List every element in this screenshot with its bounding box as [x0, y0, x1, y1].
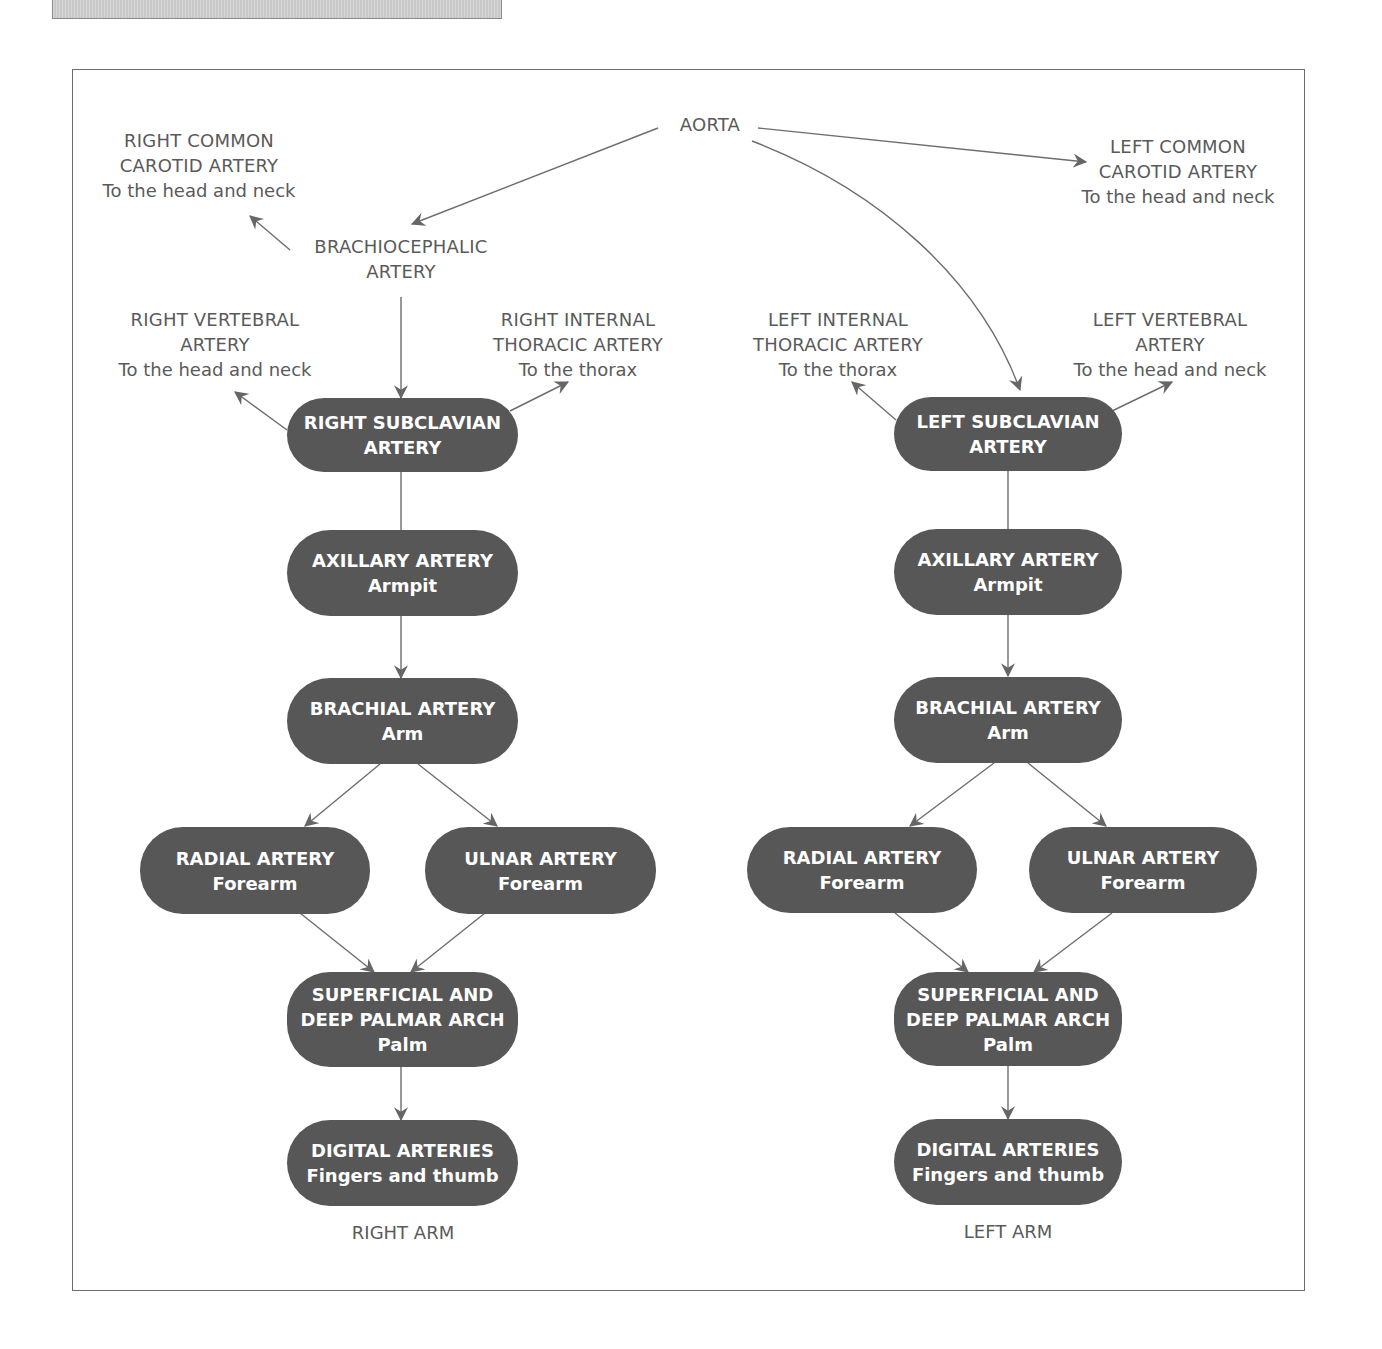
left-common-carotid-title-2: CAROTID ARTERY: [1082, 159, 1275, 184]
left-vertebral-title-1: LEFT VERTEBRAL: [1074, 307, 1267, 332]
right-subclavian-line-1: RIGHT SUBCLAVIAN: [304, 410, 501, 435]
arrow-right-subclavian-to-vertebral: [235, 392, 287, 430]
right-internal-thoracic-title-1: RIGHT INTERNAL: [493, 307, 663, 332]
aorta-title: AORTA: [680, 112, 740, 137]
arrow-left-brachial-to-radial: [910, 763, 994, 826]
left-arm-caption: LEFT ARM: [964, 1221, 1053, 1242]
right-palmar-line-2: DEEP PALMAR ARCH: [301, 1007, 505, 1032]
left-brachial-line-1: BRACHIAL ARTERY: [915, 695, 1101, 720]
left-radial-sub: Forearm: [820, 870, 905, 895]
right-internal-thoracic-title-2: THORACIC ARTERY: [493, 332, 663, 357]
right-axillary-sub: Armpit: [368, 573, 437, 598]
right-brachial-sub: Arm: [382, 721, 424, 746]
left-internal-thoracic-title-2: THORACIC ARTERY: [753, 332, 923, 357]
right-digital-node: DIGITAL ARTERIES Fingers and thumb: [287, 1120, 518, 1206]
left-vertebral-label: LEFT VERTEBRAL ARTERY To the head and ne…: [1074, 307, 1267, 382]
right-axillary-line-1: AXILLARY ARTERY: [312, 548, 493, 573]
right-subclavian-node: RIGHT SUBCLAVIAN ARTERY: [287, 398, 518, 472]
left-radial-line-1: RADIAL ARTERY: [783, 845, 942, 870]
left-brachial-node: BRACHIAL ARTERY Arm: [894, 677, 1122, 763]
right-radial-line-1: RADIAL ARTERY: [176, 846, 335, 871]
left-vertebral-title-2: ARTERY: [1074, 332, 1267, 357]
left-internal-thoracic-title-1: LEFT INTERNAL: [753, 307, 923, 332]
right-common-carotid-title-1: RIGHT COMMON: [103, 128, 296, 153]
left-internal-thoracic-label: LEFT INTERNAL THORACIC ARTERY To the tho…: [753, 307, 923, 382]
left-brachial-sub: Arm: [987, 720, 1029, 745]
left-vertebral-sub: To the head and neck: [1074, 357, 1267, 382]
left-digital-sub: Fingers and thumb: [912, 1162, 1104, 1187]
right-palmar-arch-node: SUPERFICIAL AND DEEP PALMAR ARCH Palm: [287, 972, 518, 1067]
left-axillary-node: AXILLARY ARTERY Armpit: [894, 529, 1122, 615]
left-common-carotid-label: LEFT COMMON CAROTID ARTERY To the head a…: [1082, 134, 1275, 209]
left-ulnar-line-1: ULNAR ARTERY: [1067, 845, 1220, 870]
right-vertebral-title-1: RIGHT VERTEBRAL: [119, 307, 312, 332]
left-digital-node: DIGITAL ARTERIES Fingers and thumb: [894, 1119, 1122, 1205]
right-arm-caption: RIGHT ARM: [352, 1222, 454, 1243]
left-palmar-sub: Palm: [983, 1032, 1033, 1057]
left-palmar-line-2: DEEP PALMAR ARCH: [906, 1007, 1110, 1032]
arrow-brachiocephalic-to-right-common-carotid: [250, 216, 290, 250]
arrow-left-radial-to-palmar: [895, 913, 968, 972]
left-ulnar-node: ULNAR ARTERY Forearm: [1029, 827, 1257, 913]
right-vertebral-sub: To the head and neck: [119, 357, 312, 382]
arrow-right-brachial-to-ulnar: [418, 764, 497, 826]
left-axillary-sub: Armpit: [973, 572, 1042, 597]
right-brachial-node: BRACHIAL ARTERY Arm: [287, 678, 518, 764]
right-digital-sub: Fingers and thumb: [306, 1163, 498, 1188]
right-vertebral-title-2: ARTERY: [119, 332, 312, 357]
right-radial-node: RADIAL ARTERY Forearm: [140, 827, 370, 914]
right-internal-thoracic-label: RIGHT INTERNAL THORACIC ARTERY To the th…: [493, 307, 663, 382]
right-common-carotid-label: RIGHT COMMON CAROTID ARTERY To the head …: [103, 128, 296, 203]
arrow-aorta-to-left-common-carotid: [758, 128, 1086, 162]
right-common-carotid-title-2: CAROTID ARTERY: [103, 153, 296, 178]
brachiocephalic-label: BRACHIOCEPHALIC ARTERY: [314, 234, 487, 284]
left-palmar-arch-node: SUPERFICIAL AND DEEP PALMAR ARCH Palm: [894, 972, 1122, 1066]
arrow-left-subclavian-to-internal-thoracic: [852, 382, 896, 420]
arrow-right-brachial-to-radial: [305, 764, 380, 826]
right-palmar-line-1: SUPERFICIAL AND: [312, 982, 493, 1007]
right-internal-thoracic-sub: To the thorax: [493, 357, 663, 382]
right-common-carotid-sub: To the head and neck: [103, 178, 296, 203]
left-digital-line-1: DIGITAL ARTERIES: [916, 1137, 1099, 1162]
left-internal-thoracic-sub: To the thorax: [753, 357, 923, 382]
brachiocephalic-title-2: ARTERY: [314, 259, 487, 284]
left-ulnar-sub: Forearm: [1101, 870, 1186, 895]
right-ulnar-node: ULNAR ARTERY Forearm: [425, 827, 656, 914]
left-axillary-line-1: AXILLARY ARTERY: [917, 547, 1098, 572]
aorta-label: AORTA: [680, 112, 740, 137]
right-radial-sub: Forearm: [213, 871, 298, 896]
right-vertebral-label: RIGHT VERTEBRAL ARTERY To the head and n…: [119, 307, 312, 382]
arrow-left-subclavian-to-vertebral: [1112, 382, 1172, 411]
arrow-left-ulnar-to-palmar: [1034, 913, 1112, 972]
arrow-left-brachial-to-ulnar: [1028, 763, 1106, 826]
right-brachial-line-1: BRACHIAL ARTERY: [310, 696, 496, 721]
left-palmar-line-1: SUPERFICIAL AND: [917, 982, 1098, 1007]
right-axillary-node: AXILLARY ARTERY Armpit: [287, 530, 518, 616]
right-palmar-sub: Palm: [378, 1032, 428, 1057]
left-common-carotid-title-1: LEFT COMMON: [1082, 134, 1275, 159]
right-ulnar-sub: Forearm: [498, 871, 583, 896]
left-subclavian-node: LEFT SUBCLAVIAN ARTERY: [894, 397, 1122, 471]
left-subclavian-line-2: ARTERY: [969, 434, 1046, 459]
right-digital-line-1: DIGITAL ARTERIES: [311, 1138, 494, 1163]
arrow-right-ulnar-to-palmar: [411, 913, 485, 972]
left-subclavian-line-1: LEFT SUBCLAVIAN: [917, 409, 1100, 434]
left-radial-node: RADIAL ARTERY Forearm: [747, 827, 977, 913]
right-subclavian-line-2: ARTERY: [364, 435, 441, 460]
arrow-right-subclavian-to-internal-thoracic: [510, 382, 568, 411]
left-common-carotid-sub: To the head and neck: [1082, 184, 1275, 209]
right-ulnar-line-1: ULNAR ARTERY: [464, 846, 617, 871]
arrow-right-radial-to-palmar: [300, 913, 374, 972]
arrow-aorta-to-brachiocephalic: [412, 128, 658, 224]
brachiocephalic-title-1: BRACHIOCEPHALIC: [314, 234, 487, 259]
